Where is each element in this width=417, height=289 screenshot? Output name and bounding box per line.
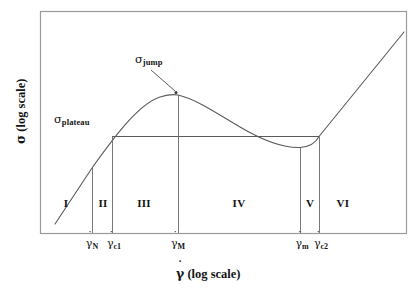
y-axis-symbol: σ xyxy=(13,135,28,144)
y-axis-suffix: (log scale) xyxy=(14,79,28,132)
tick-label-gamma-c2: γc2 xyxy=(306,238,336,251)
sigma-plateau-subscript: plateau xyxy=(62,117,90,127)
sigma-jump-subscript: jump xyxy=(143,57,163,67)
gamma-M-symbol: γ xyxy=(171,238,178,249)
x-axis-suffix: (log scale) xyxy=(187,267,240,281)
region-label-II: II xyxy=(94,198,112,209)
sigma-jump-symbol: σ xyxy=(135,52,143,66)
gamma-M-subscript: M xyxy=(178,242,186,251)
x-axis-title: γ (log scale) xyxy=(176,268,241,281)
tick-label-gamma-c1: γc1 xyxy=(99,238,129,251)
sigma-plateau-label: σplateau xyxy=(54,114,89,127)
region-label-VI: VI xyxy=(332,198,354,209)
region-label-V: V xyxy=(302,198,318,209)
gamma-N-subscript: N xyxy=(92,242,98,251)
gamma-c1-subscript: c1 xyxy=(114,242,122,251)
x-axis-symbol: γ xyxy=(176,268,184,281)
sigma-jump-leader-dot xyxy=(175,91,178,94)
sigma-jump-label: σjump xyxy=(135,54,163,67)
gamma-m-symbol: γ xyxy=(295,238,302,249)
region-label-I: I xyxy=(58,198,74,209)
sigma-plateau-symbol: σ xyxy=(54,112,62,126)
tick-label-gamma-M: γM xyxy=(164,238,192,251)
region-label-IV: IV xyxy=(228,198,250,209)
chart-canvas xyxy=(0,0,417,289)
y-axis-title: σ (log scale) xyxy=(15,56,28,166)
gamma-N-symbol: γ xyxy=(86,238,93,249)
region-label-III: III xyxy=(132,198,156,209)
gamma-c1-symbol: γ xyxy=(107,238,114,249)
gamma-c2-symbol: γ xyxy=(314,238,321,249)
gamma-c2-subscript: c2 xyxy=(321,242,329,251)
flow-curve-figure: σ (log scale) γ (log scale) σplateau σju… xyxy=(0,0,417,289)
